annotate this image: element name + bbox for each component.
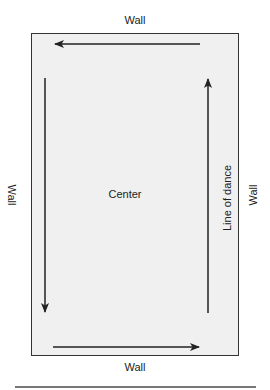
bottom-divider <box>15 386 256 388</box>
line-of-dance-arrows <box>0 0 270 390</box>
